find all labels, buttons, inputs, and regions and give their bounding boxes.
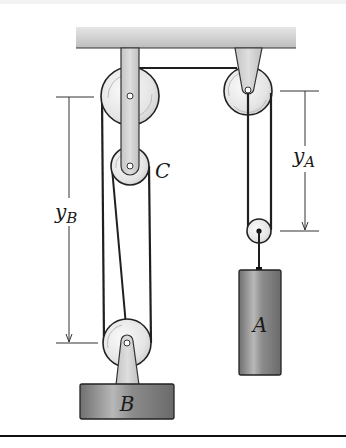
rope-diagonal xyxy=(112,168,127,337)
block-a: A xyxy=(239,270,281,375)
block-b: B xyxy=(80,384,174,419)
hanger-bar-left xyxy=(121,48,139,175)
top-band xyxy=(0,0,346,4)
rope-left-outer xyxy=(102,96,104,343)
dimension-ya-label: yA xyxy=(292,144,315,171)
pulley-c-label: C xyxy=(155,159,170,183)
dimension-yb-label: yB xyxy=(54,200,77,227)
rope-right-inner xyxy=(149,166,151,343)
block-a-label: A xyxy=(251,313,267,337)
ceiling xyxy=(76,27,296,48)
block-b-label: B xyxy=(119,392,135,416)
pulley-diagram: A B C yB yA xyxy=(0,0,346,448)
